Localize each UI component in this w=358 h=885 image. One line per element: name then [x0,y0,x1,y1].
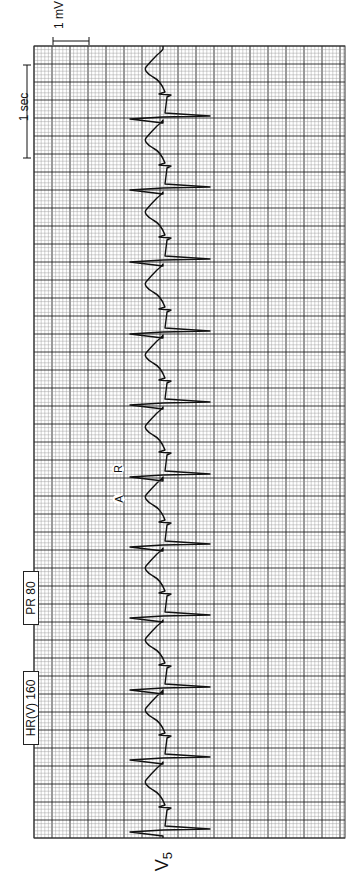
ecg-grid-paper [34,46,345,838]
lead-label: V5 [155,841,176,871]
heart-rate-label: HR(V) 160 [23,671,39,745]
voltage-calibration-label: 1 mV [52,0,66,30]
lead-letter: V [152,859,172,871]
calibration-bars [23,37,89,158]
lead-number: 5 [160,852,175,859]
marker-a: A [113,494,125,503]
ecg-strip [0,0,358,885]
pr-interval-label: PR 80 [23,571,39,625]
time-calibration-label: 1 sec [17,87,31,127]
marker-r: R [112,464,124,474]
